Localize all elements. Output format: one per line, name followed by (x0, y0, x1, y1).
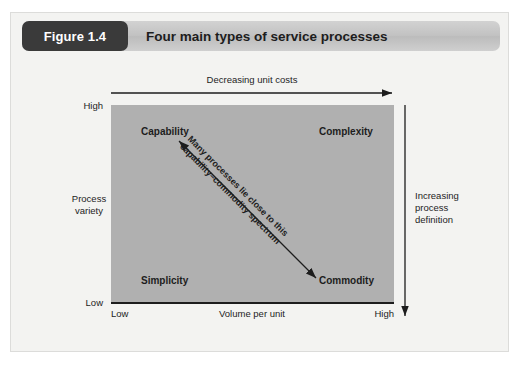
y-axis-label-line2: variety (75, 205, 103, 216)
quadrant-label-simplicity: Simplicity (141, 275, 189, 286)
process-types-diagram: Decreasing unit costs High Low Process v… (11, 13, 510, 353)
y-axis-label-line1: Process (72, 193, 107, 204)
x-axis-low-label: Low (111, 308, 129, 319)
right-axis-label-line1: Increasing (415, 190, 459, 201)
quadrant-label-complexity: Complexity (319, 126, 373, 137)
right-axis-label-line3: definition (415, 214, 453, 225)
top-axis-label: Decreasing unit costs (207, 74, 298, 85)
left-axis-high-label: High (83, 100, 103, 111)
x-axis-high-label: High (374, 308, 394, 319)
figure-card: Figure 1.4 Four main types of service pr… (10, 12, 509, 352)
left-axis-low-label: Low (86, 297, 104, 308)
quadrant-label-capability: Capability (141, 126, 189, 137)
right-axis-label-line2: process (415, 202, 449, 213)
x-axis-label: Volume per unit (219, 308, 285, 319)
quadrant-label-commodity: Commodity (319, 275, 374, 286)
